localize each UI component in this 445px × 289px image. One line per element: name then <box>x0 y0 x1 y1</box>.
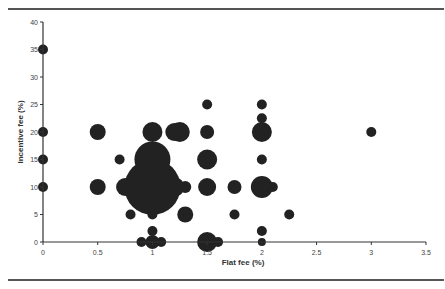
bubble <box>90 124 106 140</box>
y-tick-label: 35 <box>30 46 38 53</box>
x-tick-label: 2.5 <box>312 249 322 256</box>
bubble <box>126 177 146 197</box>
bubble <box>257 100 267 110</box>
y-tick-label: 15 <box>30 156 38 163</box>
bubble <box>257 155 267 165</box>
y-tick-label: 10 <box>30 184 38 191</box>
y-tick-label: 20 <box>30 129 38 136</box>
x-tick-label: 2 <box>260 249 264 256</box>
bubble <box>366 127 376 137</box>
bubble <box>126 210 136 220</box>
x-tick-label: 0 <box>41 249 45 256</box>
bubble <box>284 210 294 220</box>
bubble <box>230 210 240 220</box>
bubble <box>257 226 267 236</box>
bubble <box>257 113 267 123</box>
bubble <box>268 182 278 192</box>
x-tick-label: 3.5 <box>421 249 431 256</box>
bubble <box>115 155 125 165</box>
bubbles-layer <box>38 45 376 253</box>
bubble <box>252 122 272 142</box>
bubble <box>197 150 217 170</box>
x-tick-label: 1.5 <box>202 249 212 256</box>
bubble <box>142 122 162 142</box>
bubble <box>177 207 193 223</box>
bubble <box>198 178 216 196</box>
bubble <box>165 123 183 141</box>
bubble <box>90 179 106 195</box>
bubble <box>179 181 191 193</box>
bubble <box>147 210 157 220</box>
x-tick-label: 0.5 <box>93 249 103 256</box>
x-axis-title: Flat fee (%) <box>222 258 265 267</box>
y-tick-label: 25 <box>30 101 38 108</box>
bubble-chart: 00.511.522.533.50510152025303540 Flat fe… <box>0 0 445 289</box>
bubble <box>147 226 157 236</box>
axes: 00.511.522.533.50510152025303540 <box>30 19 431 257</box>
y-tick-label: 30 <box>30 74 38 81</box>
y-tick-label: 5 <box>34 211 38 218</box>
x-tick-label: 3 <box>369 249 373 256</box>
y-axis-title: Incentive fee (%) <box>16 100 25 163</box>
bubble <box>200 125 214 139</box>
y-tick-label: 0 <box>34 239 38 246</box>
bubble <box>202 100 212 110</box>
bubble <box>228 180 242 194</box>
y-tick-label: 40 <box>30 19 38 26</box>
x-tick-label: 1 <box>150 249 154 256</box>
